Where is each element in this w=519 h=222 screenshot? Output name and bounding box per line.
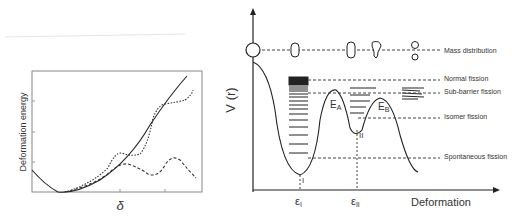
- elongated-shape: [347, 42, 355, 58]
- right-ylabel: V (r): [223, 87, 238, 112]
- annotation-spontaneous-fission: Spontaneous fission: [444, 153, 507, 161]
- well-ii-label: II: [359, 131, 363, 140]
- ea-label: EA: [330, 99, 342, 111]
- necked-shape: [372, 42, 381, 59]
- left-xlabel: δ: [116, 198, 124, 213]
- annotation-normal-fission: Normal fission: [444, 75, 488, 82]
- epsilon-ii-tick: εII: [351, 195, 360, 208]
- sphere-shape: [246, 43, 260, 57]
- annotation-isomer-fission: Isomer fission: [444, 113, 487, 120]
- fragment-shape: [412, 54, 418, 60]
- well-i-label: I: [302, 176, 304, 185]
- fragment-shape: [412, 42, 419, 49]
- annotation-sub-barrier-fission: Sub-barrier fission: [444, 88, 501, 95]
- left-ylabel: Deformation energy: [18, 92, 28, 172]
- annotation-mass-distribution: Mass distribution: [444, 47, 497, 54]
- right-xlabel: Deformation: [411, 196, 471, 208]
- right-plot: V (r) Deformation: [223, 8, 507, 208]
- x-axis-arrow-icon: [493, 187, 500, 193]
- y-axis-arrow-icon: [250, 8, 256, 15]
- dotted-curve: [65, 90, 193, 192]
- left-plot: Deformation energy δ: [18, 71, 202, 213]
- elongated-shape: [291, 43, 299, 57]
- fission-diagram: Deformation energy δ V (r) Deformation: [0, 0, 519, 222]
- epsilon-i-tick: εI: [295, 195, 302, 208]
- solid-curve: [32, 76, 187, 192]
